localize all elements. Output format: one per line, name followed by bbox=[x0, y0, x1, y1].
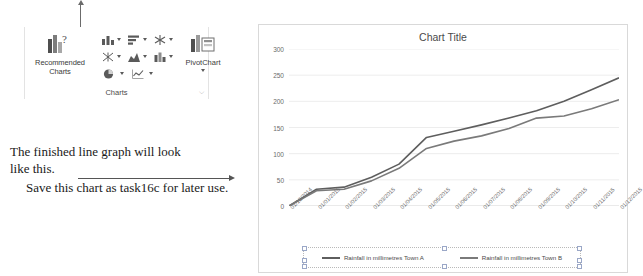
chart-title[interactable]: Chart Title bbox=[259, 31, 627, 43]
legend-swatch-town-b bbox=[460, 257, 478, 259]
legend-item-town-a[interactable]: Rainfall in millimetres Town A bbox=[322, 254, 424, 261]
area-chart-dropdown-caret[interactable] bbox=[143, 49, 148, 64]
legend-handle-s[interactable] bbox=[442, 264, 447, 269]
column-chart-icon[interactable] bbox=[100, 32, 116, 47]
column-chart-dropdown-caret[interactable] bbox=[117, 32, 122, 47]
y-axis-tick-label: 250 bbox=[273, 72, 284, 79]
y-axis-tick-label: 300 bbox=[273, 46, 284, 53]
pie-chart-icon[interactable] bbox=[100, 66, 118, 81]
combo-chart-dropdown-caret[interactable] bbox=[148, 66, 154, 81]
combo-chart-icon[interactable] bbox=[129, 66, 147, 81]
pie-chart-dropdown-caret[interactable] bbox=[119, 66, 125, 81]
legend-handle-se[interactable] bbox=[577, 264, 582, 269]
instruction-line-1: The finished line graph will look bbox=[10, 143, 260, 160]
recommended-charts-icon: ? bbox=[47, 32, 73, 56]
x-axis-tick-label: 01/12/2015 bbox=[619, 186, 643, 210]
pivotchart-dropdown-caret[interactable] bbox=[201, 69, 205, 72]
recommended-charts-label-line2: Charts bbox=[49, 67, 71, 76]
chart-type-row-2 bbox=[100, 48, 178, 65]
legend-label-town-b: Rainfall in millimetres Town B bbox=[482, 254, 562, 261]
bar-chart-icon[interactable] bbox=[126, 32, 142, 47]
legend-handle-ne[interactable] bbox=[577, 246, 582, 251]
series-lines bbox=[289, 49, 619, 206]
pivotchart-label: PivotChart bbox=[185, 58, 220, 67]
bar-chart-dropdown-caret[interactable] bbox=[143, 32, 148, 47]
legend-item-town-b[interactable]: Rainfall in millimetres Town B bbox=[460, 254, 562, 261]
y-axis-tick-label: 200 bbox=[273, 98, 284, 105]
y-axis-tick-label: 0 bbox=[280, 203, 284, 210]
y-axis-labels: 050100150200250300 bbox=[259, 49, 287, 206]
recommended-charts-label-line1: Recommended bbox=[35, 58, 85, 67]
svg-text:?: ? bbox=[62, 33, 67, 45]
legend-label-town-a: Rainfall in millimetres Town A bbox=[344, 254, 424, 261]
pivotchart-icon bbox=[190, 33, 216, 55]
scatter-chart-dropdown-caret[interactable] bbox=[117, 49, 122, 64]
scatter-chart-icon[interactable] bbox=[100, 49, 116, 64]
legend-handle-sw[interactable] bbox=[302, 264, 307, 269]
instruction-line-2: like this. bbox=[10, 160, 260, 177]
chart-type-row-3 bbox=[100, 65, 178, 82]
instruction-arrow bbox=[78, 178, 230, 179]
y-axis-tick-label: 150 bbox=[273, 124, 284, 131]
y-axis-tick-label: 100 bbox=[273, 150, 284, 157]
area-chart-icon[interactable] bbox=[126, 49, 142, 64]
statistic-chart-icon[interactable] bbox=[152, 49, 168, 64]
chart-type-row-1 bbox=[100, 31, 178, 48]
chart-object[interactable]: Chart Title 050100150200250300 01/12/201… bbox=[258, 24, 628, 273]
statistic-chart-dropdown-caret[interactable] bbox=[169, 49, 174, 64]
instruction-text-block: The finished line graph will look like t… bbox=[10, 143, 260, 196]
instruction-line-3: Save this chart as task16c for later use… bbox=[10, 179, 260, 196]
plot-area[interactable] bbox=[289, 49, 619, 206]
legend-handle-w[interactable] bbox=[302, 258, 307, 263]
ribbon-charts-group: ? Recommended Charts bbox=[24, 27, 209, 99]
legend-handle-e[interactable] bbox=[577, 258, 582, 263]
dialog-box-launcher-icon[interactable]: ⌵ bbox=[199, 88, 204, 96]
x-axis-labels: 01/12/201401/01/201501/02/201501/03/2015… bbox=[289, 206, 619, 242]
chart-type-button-grid bbox=[100, 31, 178, 83]
legend-swatch-town-a bbox=[322, 257, 340, 259]
radar-chart-dropdown-caret[interactable] bbox=[169, 32, 174, 47]
legend-handle-nw[interactable] bbox=[302, 246, 307, 251]
y-axis-tick-label: 50 bbox=[277, 176, 284, 183]
charts-group-label: Charts bbox=[25, 88, 208, 97]
legend-handle-n[interactable] bbox=[442, 246, 447, 251]
radar-chart-icon[interactable] bbox=[152, 32, 168, 47]
chart-legend[interactable]: Rainfall in millimetres Town A Rainfall … bbox=[303, 247, 581, 268]
pivotchart-button[interactable]: PivotChart bbox=[180, 30, 226, 88]
recommended-charts-button[interactable]: ? Recommended Charts bbox=[29, 30, 91, 86]
